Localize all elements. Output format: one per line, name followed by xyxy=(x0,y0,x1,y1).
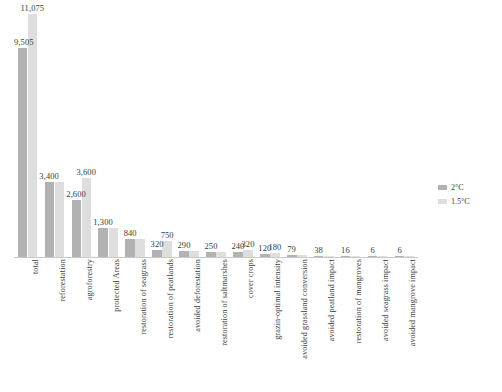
bar-group xyxy=(179,14,199,257)
bar-chart: 9,50511,0753,4002,6003,6001,300840320750… xyxy=(0,0,502,392)
bar-value-label: 290 xyxy=(178,240,191,250)
bar-15c[interactable] xyxy=(162,241,172,257)
category-label: restoration of seagrass xyxy=(139,259,148,335)
bar-value-label: 79 xyxy=(287,244,296,254)
category-label: grazin-optimal intensity xyxy=(273,259,282,340)
category-label: avoided mangrove impact xyxy=(408,259,417,346)
bar-group xyxy=(233,14,253,257)
bar-2c[interactable] xyxy=(72,200,82,257)
bar-15c[interactable] xyxy=(243,250,253,257)
legend-label-15c: 1.5°C xyxy=(451,197,470,206)
bar-value-label: 1,300 xyxy=(93,217,113,227)
bar-15c[interactable] xyxy=(28,14,38,257)
bar-group xyxy=(206,14,226,257)
bar-group xyxy=(260,14,280,257)
legend-item-2c[interactable]: 2°C xyxy=(438,183,498,192)
bar-group xyxy=(314,14,334,257)
bar-value-label: 180 xyxy=(268,242,281,252)
bar-value-label: 16 xyxy=(341,245,350,255)
bar-2c[interactable] xyxy=(18,48,28,257)
x-axis-line xyxy=(14,257,418,258)
legend-item-15c[interactable]: 1.5°C xyxy=(438,197,498,206)
category-label: cover crops xyxy=(246,259,255,298)
bar-value-label: 11,075 xyxy=(21,3,45,13)
category-axis-labels: totalreforestationagroforestryprotected … xyxy=(14,259,418,389)
bar-value-label: 840 xyxy=(124,228,137,238)
category-label: agroforestry xyxy=(85,259,94,300)
legend-swatch-2c xyxy=(438,185,447,190)
chart-legend: 2°C 1.5°C xyxy=(438,183,498,211)
bar-value-label: 2,600 xyxy=(66,189,86,199)
bar-15c[interactable] xyxy=(109,228,119,257)
bar-value-label: 750 xyxy=(161,230,174,240)
category-label: avoided seagrass impact xyxy=(381,259,390,341)
legend-swatch-15c xyxy=(438,199,447,204)
category-label: avoided grassland conversion xyxy=(300,259,309,359)
bar-group xyxy=(287,14,307,257)
bar-group xyxy=(18,14,38,257)
bar-2c[interactable] xyxy=(152,250,162,257)
bar-group xyxy=(152,14,172,257)
bar-group xyxy=(125,14,145,257)
plot-area: 9,50511,0753,4002,6003,6001,300840320750… xyxy=(14,14,418,257)
category-label: protected Areas xyxy=(112,259,121,312)
bar-value-label: 250 xyxy=(204,241,217,251)
bar-group xyxy=(72,14,92,257)
bar-15c[interactable] xyxy=(135,239,145,257)
bar-group xyxy=(45,14,65,257)
category-label: restoration of mangroves xyxy=(354,259,363,343)
category-label: avoided deforestation xyxy=(193,259,202,332)
bar-15c[interactable] xyxy=(55,182,65,257)
category-label: restoration of peatlands xyxy=(166,259,175,338)
bar-value-label: 9,505 xyxy=(14,37,34,47)
bar-value-label: 6 xyxy=(397,245,401,255)
bar-2c[interactable] xyxy=(98,228,108,257)
bar-value-label: 3,600 xyxy=(76,167,96,177)
category-label: avoided peatland impact xyxy=(327,259,336,341)
bar-group xyxy=(368,14,388,257)
category-label: reforestation xyxy=(58,259,67,302)
bar-value-label: 320 xyxy=(241,239,254,249)
bar-value-label: 6 xyxy=(371,245,375,255)
bar-2c[interactable] xyxy=(45,182,55,257)
bar-group xyxy=(341,14,361,257)
bar-value-label: 38 xyxy=(314,245,323,255)
category-label: restoration of saltmarshes xyxy=(220,259,229,346)
category-label: total xyxy=(31,259,40,274)
bar-2c[interactable] xyxy=(125,239,135,257)
bar-group xyxy=(395,14,415,257)
legend-label-2c: 2°C xyxy=(451,183,464,192)
bar-value-label: 3,400 xyxy=(39,171,59,181)
bar-value-label: 320 xyxy=(151,239,164,249)
